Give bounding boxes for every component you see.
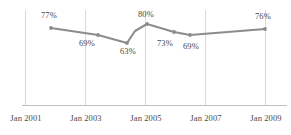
data-label-77: 77% — [41, 10, 57, 20]
x-tick-label-jan-2007: Jan 2007 — [178, 113, 234, 123]
data-point-76 — [263, 27, 267, 31]
data-point-80 — [145, 22, 149, 26]
data-label-80: 80% — [138, 9, 154, 19]
data-point-77 — [49, 26, 53, 30]
x-tick-label-jan-2001: Jan 2001 — [0, 113, 54, 123]
data-point-69-b — [188, 33, 192, 37]
data-label-69-a: 69% — [79, 38, 95, 48]
data-label-73: 73% — [157, 38, 173, 48]
data-label-76: 76% — [255, 11, 271, 21]
x-tick-label-jan-2003: Jan 2003 — [58, 113, 114, 123]
data-point-73 — [172, 30, 176, 34]
data-label-69-b: 69% — [183, 41, 199, 51]
data-point-69-a — [96, 33, 100, 37]
data-label-63: 63% — [120, 46, 136, 56]
x-tick-label-jan-2005: Jan 2005 — [118, 113, 174, 123]
line-chart: 77% 69% 63% 80% 73% 69% 76% Jan 2001 Jan… — [0, 0, 291, 135]
data-point-63 — [125, 41, 129, 45]
x-tick-label-jan-2009: Jan 2009 — [238, 113, 291, 123]
